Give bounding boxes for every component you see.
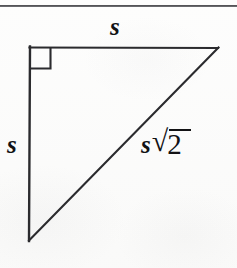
label-hypotenuse: s √ 2 — [141, 127, 184, 159]
hypotenuse-variable: s — [141, 132, 151, 157]
right-angle-marker — [30, 48, 51, 69]
radicand-value: 2 — [167, 127, 184, 159]
label-left-leg: s — [7, 132, 17, 157]
geometry-figure: s s s √ 2 — [0, 0, 237, 268]
radical-overbar — [169, 129, 191, 131]
triangle-hypotenuse — [29, 48, 219, 241]
triangle-left-leg — [29, 47, 30, 242]
radical-sign-icon: √ — [152, 127, 167, 156]
triangle-drawing — [0, 0, 237, 268]
triangle-top-leg — [30, 48, 219, 49]
label-top-leg: s — [110, 14, 120, 39]
radical-expression: √ 2 — [152, 127, 184, 159]
